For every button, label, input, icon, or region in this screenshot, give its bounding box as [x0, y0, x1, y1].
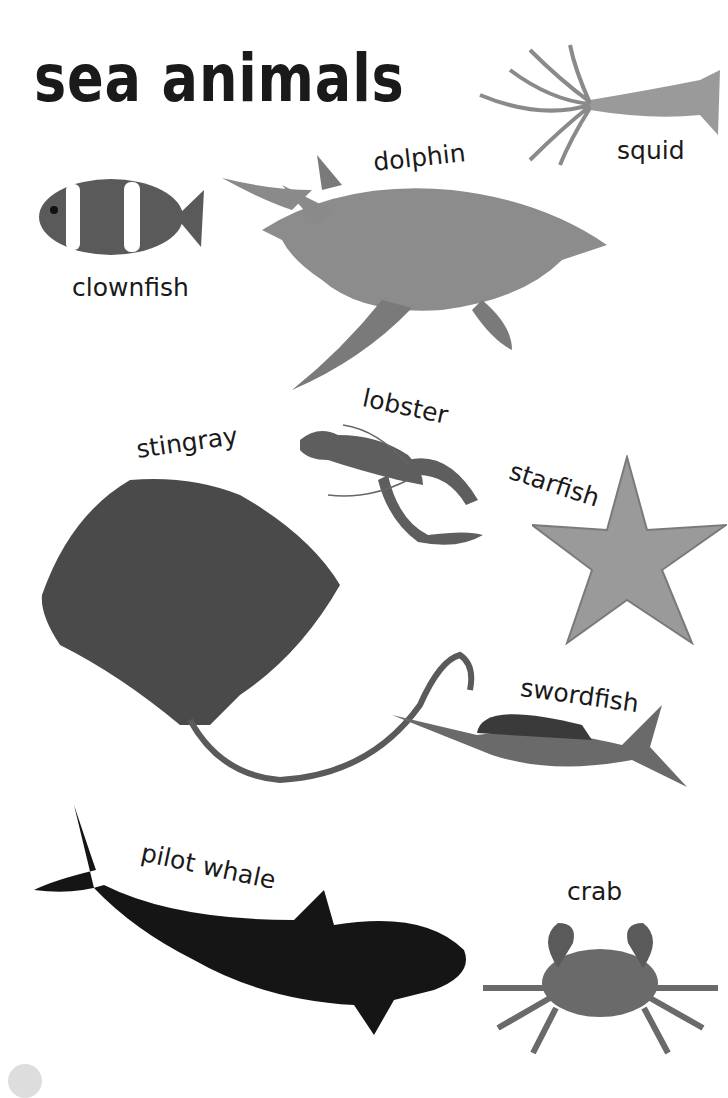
clownfish-image: [36, 172, 206, 267]
pilot-whale-image: [34, 800, 474, 1040]
swordfish-image: [392, 695, 692, 795]
page-title: sea animals: [34, 40, 405, 117]
dolphin-image: [222, 150, 612, 395]
crab-image: [478, 918, 723, 1058]
crab-label: crab: [567, 877, 622, 906]
page-number-marker: [8, 1064, 42, 1098]
starfish-image: [532, 455, 727, 645]
clownfish-label: clownfish: [72, 273, 189, 302]
stingray-label: stingray: [134, 421, 239, 464]
squid-label: squid: [617, 136, 685, 165]
